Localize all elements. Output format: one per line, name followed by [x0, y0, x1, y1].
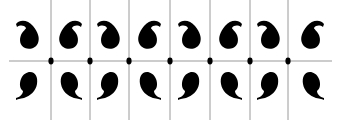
- top-paisley-tail-left-icon: [257, 21, 280, 49]
- bottom-comma-tail-down-right-icon: [61, 72, 82, 100]
- top-paisley-tail-right-icon: [138, 21, 161, 49]
- intersection-dot-icon: [167, 58, 172, 65]
- top-paisley-tail-right-icon: [219, 21, 242, 49]
- intersection-dot-icon: [87, 58, 92, 65]
- intersection-dot-icon: [285, 58, 290, 65]
- bottom-comma-tail-down-left-icon: [178, 72, 199, 100]
- bottom-comma-tail-down-left-icon: [257, 72, 278, 100]
- intersection-dot-icon: [207, 58, 212, 65]
- top-paisley-tail-right-icon: [59, 21, 82, 49]
- pattern-figure: Decorative repeating pattern of paisley …: [0, 0, 338, 120]
- top-paisley-tail-left-icon: [16, 21, 39, 49]
- bottom-comma-tail-down-right-icon: [221, 72, 242, 100]
- bottom-comma-tail-down-right-icon: [303, 72, 324, 100]
- top-paisley-tail-left-icon: [97, 21, 120, 49]
- top-paisley-tail-left-icon: [178, 21, 201, 49]
- intersection-dot-icon: [126, 58, 131, 65]
- bottom-comma-tail-down-right-icon: [140, 72, 161, 100]
- paisley-grid-pattern: [0, 0, 338, 120]
- intersection-dot-icon: [48, 58, 53, 65]
- bottom-comma-tail-down-left-icon: [16, 72, 37, 100]
- intersection-dot-icon: [247, 58, 252, 65]
- bottom-comma-tail-down-left-icon: [97, 72, 118, 100]
- top-paisley-tail-right-icon: [301, 21, 324, 49]
